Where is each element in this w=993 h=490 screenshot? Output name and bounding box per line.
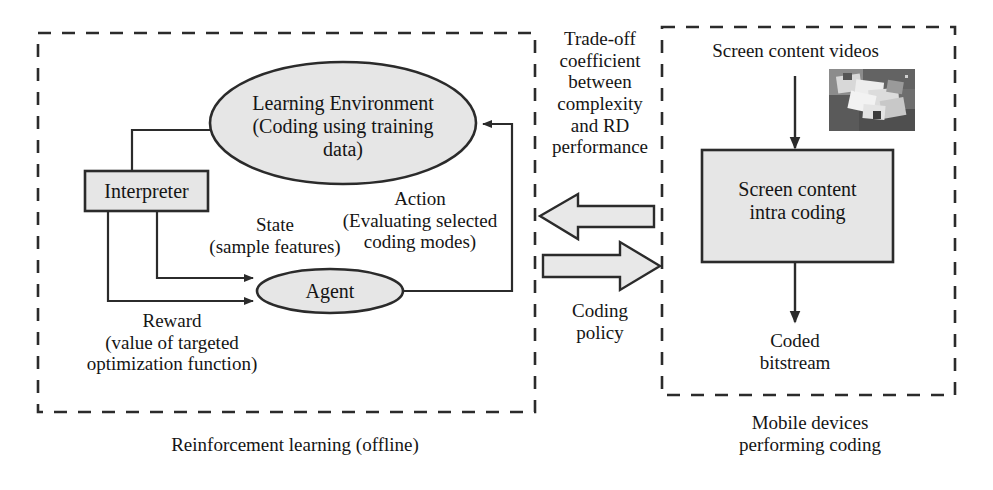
label-interpreter: Interpreter bbox=[85, 180, 208, 203]
caption-left-panel: Reinforcement learning (offline) bbox=[155, 434, 435, 456]
screen-content-thumbnail bbox=[829, 69, 915, 131]
label-coding-policy: Coding policy bbox=[540, 300, 660, 343]
block-arrow-left bbox=[540, 194, 654, 239]
label-tradeoff-coefficient: Trade-off coefficient between complexity… bbox=[540, 28, 660, 158]
label-agent: Agent bbox=[257, 280, 403, 303]
label-edge-action: Action (Evaluating selected coding modes… bbox=[325, 188, 515, 253]
diagram-canvas: Learning Environment (Coding using train… bbox=[0, 0, 993, 490]
label-screen-content-videos: Screen content videos bbox=[688, 40, 903, 62]
label-learning-environment: Learning Environment (Coding using train… bbox=[210, 92, 476, 160]
label-coded-bitstream: Coded bitstream bbox=[715, 330, 875, 373]
label-screen-content-intra-coding: Screen content intra coding bbox=[702, 178, 893, 224]
label-edge-reward: Reward (value of targeted optimization f… bbox=[62, 310, 282, 375]
caption-right-panel: Mobile devices performing coding bbox=[690, 412, 930, 455]
block-arrow-right bbox=[543, 242, 660, 290]
edge-environment-to-interpreter bbox=[132, 130, 213, 172]
